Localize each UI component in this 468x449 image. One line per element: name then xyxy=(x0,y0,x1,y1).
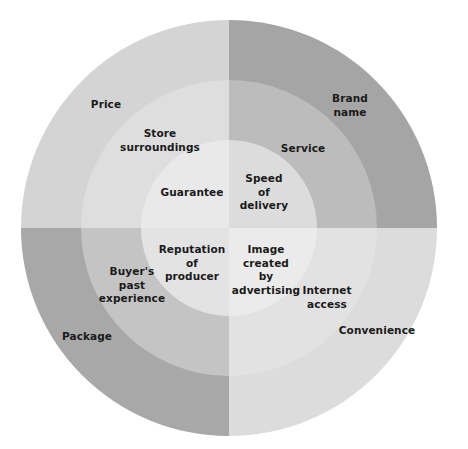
circle-diagram: PriceStore surroundingsBrand nameService… xyxy=(0,0,468,449)
concentric-circles-graphic xyxy=(0,0,468,449)
